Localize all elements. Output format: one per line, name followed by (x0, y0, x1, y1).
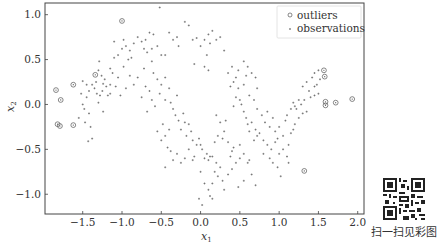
observation-point (204, 39, 206, 41)
outlier-point (93, 72, 98, 77)
observation-point (308, 90, 310, 92)
observation-point (288, 162, 290, 164)
outlier-point (58, 98, 63, 103)
observation-point (292, 102, 294, 104)
observation-point (251, 173, 253, 175)
observation-point (200, 171, 202, 173)
y-tick-label: −1.0 (16, 188, 42, 200)
observation-point (300, 103, 302, 105)
observation-point (288, 144, 290, 146)
observation-point (290, 132, 292, 134)
y-tick-label: 0.0 (24, 98, 41, 110)
observation-point (90, 126, 92, 128)
observation-point (262, 139, 264, 141)
observation-point (87, 140, 89, 142)
observation-point (302, 86, 304, 88)
observation-point (314, 86, 316, 88)
observation-point (298, 117, 300, 119)
observation-point (137, 36, 139, 38)
observation-point (180, 129, 182, 131)
observation-point (88, 112, 90, 114)
observation-point (233, 147, 235, 149)
observation-point (160, 54, 162, 56)
observation-point (204, 182, 206, 184)
observation-point (151, 48, 153, 50)
observation-point (248, 159, 250, 161)
observation-point (274, 141, 276, 143)
observation-point (247, 162, 249, 164)
observation-point (211, 30, 213, 32)
observation-point (306, 81, 308, 83)
observation-point (159, 6, 161, 8)
observation-point (222, 138, 224, 140)
observation-point (125, 45, 127, 47)
outlier-point (120, 19, 125, 24)
observation-point (151, 99, 153, 101)
observation-point (176, 36, 178, 38)
outlier-point (323, 103, 328, 108)
observation-point (284, 120, 286, 122)
outlier-point (350, 97, 355, 102)
x-axis-label: x1 (201, 230, 212, 244)
observation-point (215, 114, 217, 116)
observation-point (164, 99, 166, 101)
observation-point (286, 114, 288, 116)
observation-point (294, 105, 296, 107)
observation-point (123, 39, 125, 41)
observation-point (201, 148, 203, 150)
outlier-point (333, 100, 338, 105)
observation-point (159, 93, 161, 95)
observation-point (113, 41, 115, 43)
observation-point (206, 153, 208, 155)
observation-point (96, 93, 98, 95)
observation-point (141, 41, 143, 43)
observation-point (214, 141, 216, 143)
legend-outliers-label: outliers (297, 9, 338, 21)
observation-point (107, 94, 109, 96)
x-tick-label: 1.5 (310, 216, 327, 228)
observation-point (245, 117, 247, 119)
observation-point (290, 108, 292, 110)
observation-point (235, 162, 237, 164)
observation-point (211, 198, 213, 200)
observation-point (215, 39, 217, 41)
x-tick-label: −0.5 (149, 216, 175, 228)
observation-point (278, 126, 280, 128)
observation-point (237, 186, 239, 188)
observation-point (146, 51, 148, 53)
outlier-point (322, 68, 327, 73)
observation-point (207, 189, 209, 191)
observation-point (152, 72, 154, 74)
observation-point (277, 138, 279, 140)
y-axis-label: x2 (4, 101, 18, 112)
observation-point (198, 138, 200, 140)
observation-point (259, 132, 261, 134)
observation-point (227, 141, 229, 143)
observation-point (164, 77, 166, 79)
qr-caption: 扫一扫见彩图 (371, 223, 437, 239)
observation-point (280, 175, 282, 177)
x-tick-label: −1.5 (70, 216, 96, 228)
observation-point (123, 66, 125, 68)
observation-point (82, 80, 84, 82)
observation-point (209, 195, 211, 197)
observation-point (184, 121, 186, 123)
observation-point (192, 139, 194, 141)
observation-point (317, 69, 319, 71)
observation-point (225, 120, 227, 122)
observation-point (102, 111, 104, 113)
observation-point (231, 66, 233, 68)
observation-point (243, 180, 245, 182)
observation-point (98, 60, 100, 62)
observation-point (256, 87, 258, 89)
outlier-point (302, 169, 307, 174)
observation-point (272, 117, 274, 119)
observation-point (130, 57, 132, 59)
observation-point (222, 180, 224, 182)
observation-point (109, 68, 111, 70)
observation-point (223, 189, 225, 191)
observation-point (172, 39, 174, 41)
observation-point (217, 175, 219, 177)
observation-point (99, 94, 101, 96)
